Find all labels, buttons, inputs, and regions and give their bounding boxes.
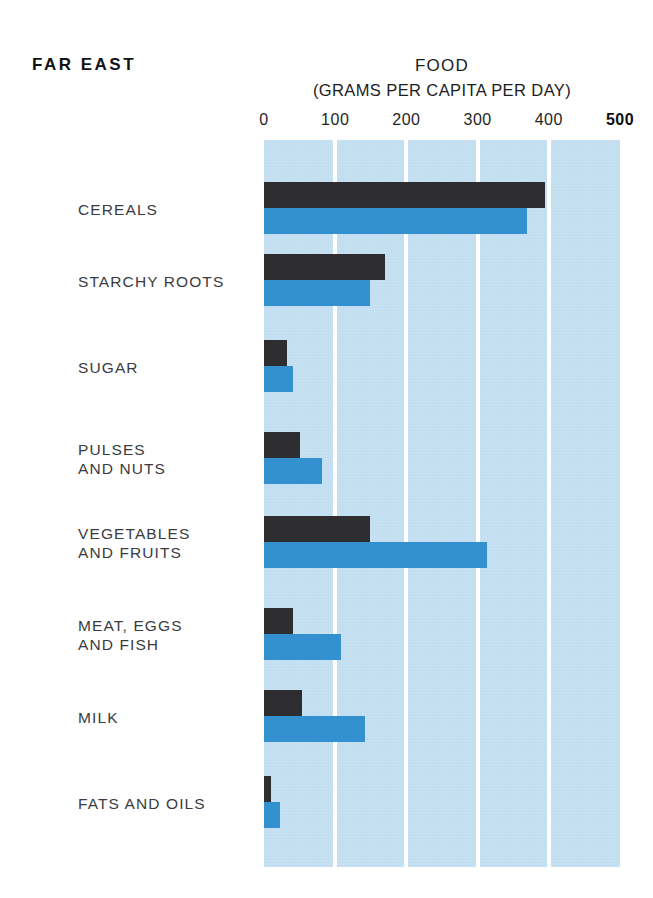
plot-area — [264, 140, 620, 867]
category-label: FATS AND OILS — [78, 794, 258, 813]
region-title: FAR EAST — [32, 55, 136, 75]
category-label: VEGETABLES AND FRUITS — [78, 524, 258, 562]
x-tick-label-100: 100 — [321, 111, 349, 129]
gridline-300 — [476, 140, 480, 867]
bar-blue-6 — [264, 716, 365, 742]
x-tick-label-400: 400 — [535, 111, 563, 129]
x-tick-label-300: 300 — [463, 111, 491, 129]
bar-blue-3 — [264, 458, 322, 484]
chart-page: FAR EAST FOOD (GRAMS PER CAPITA PER DAY)… — [0, 0, 653, 898]
bar-dark-0 — [264, 182, 545, 208]
bar-blue-2 — [264, 366, 293, 392]
bar-blue-0 — [264, 208, 527, 234]
bar-blue-5 — [264, 634, 341, 660]
category-label: SUGAR — [78, 358, 258, 377]
bar-dark-2 — [264, 340, 287, 366]
category-label: MILK — [78, 708, 258, 727]
bar-dark-4 — [264, 516, 370, 542]
bar-blue-1 — [264, 280, 370, 306]
category-label: MEAT, EGGS AND FISH — [78, 616, 258, 654]
chart-title: FOOD — [264, 56, 620, 76]
bar-dark-6 — [264, 690, 302, 716]
gridline-400 — [547, 140, 551, 867]
bar-dark-5 — [264, 608, 293, 634]
category-label: CEREALS — [78, 200, 258, 219]
x-axis: 0100200300400500 — [0, 111, 653, 135]
bar-dark-1 — [264, 254, 385, 280]
category-label: PULSES AND NUTS — [78, 440, 258, 478]
chart-subtitle: (GRAMS PER CAPITA PER DAY) — [244, 81, 640, 100]
bar-dark-7 — [264, 776, 271, 802]
bar-blue-4 — [264, 542, 487, 568]
plot-texture — [264, 140, 620, 867]
category-label: STARCHY ROOTS — [78, 272, 258, 291]
gridline-100 — [333, 140, 337, 867]
x-tick-label-200: 200 — [392, 111, 420, 129]
bar-dark-3 — [264, 432, 300, 458]
bar-blue-7 — [264, 802, 280, 828]
x-tick-label-0: 0 — [259, 111, 268, 129]
x-tick-label-500: 500 — [606, 111, 634, 129]
gridline-200 — [404, 140, 408, 867]
